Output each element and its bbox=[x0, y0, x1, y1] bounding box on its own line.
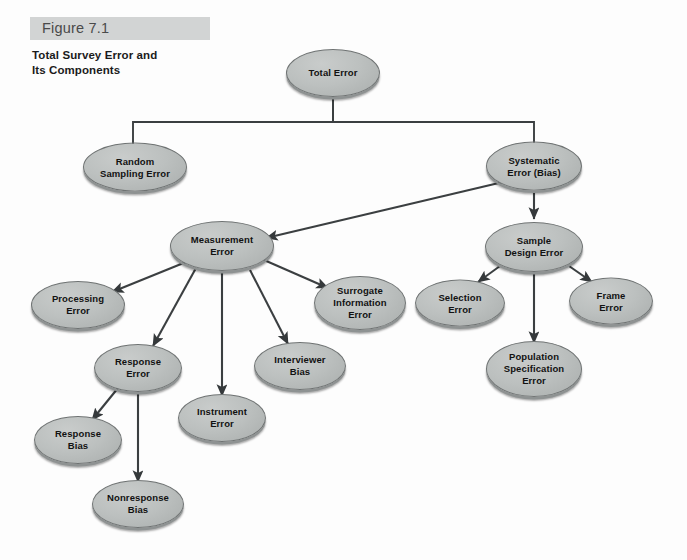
node-interviewer-bias[interactable]: InterviewerBias bbox=[254, 342, 346, 390]
node-total-error[interactable]: Total Error bbox=[286, 49, 380, 97]
node-label: SelectionError bbox=[433, 291, 486, 315]
edge-total-to-systematic bbox=[333, 99, 534, 144]
edge-response-to-responsebias bbox=[92, 388, 118, 420]
edge-measurement-to-surrogate bbox=[264, 260, 328, 288]
node-response-error[interactable]: ResponseError bbox=[94, 344, 182, 392]
edge-measurement-to-processing bbox=[112, 262, 186, 292]
edge-systematic-to-measurement bbox=[266, 182, 503, 238]
node-label: SurrogateInformationError bbox=[328, 285, 391, 321]
node-label: PopulationSpecificationError bbox=[499, 351, 569, 387]
node-label: MeasurementError bbox=[186, 234, 258, 258]
node-label: InterviewerBias bbox=[269, 354, 330, 378]
node-label: NonresponseBias bbox=[102, 492, 174, 516]
edge-total-to-random bbox=[133, 99, 333, 146]
node-instrument-error[interactable]: InstrumentError bbox=[178, 394, 266, 442]
node-label: SampleDesign Error bbox=[500, 235, 569, 259]
node-label: ProcessingError bbox=[47, 293, 109, 317]
node-label: ResponseBias bbox=[50, 428, 106, 452]
node-random-sampling-error[interactable]: RandomSampling Error bbox=[83, 143, 187, 192]
node-surrogate-information-error[interactable]: SurrogateInformationError bbox=[314, 276, 406, 330]
figure-canvas: Figure 7.1 Total Survey Error and Its Co… bbox=[0, 0, 687, 560]
node-label: SystematicError (Bias) bbox=[502, 154, 565, 178]
node-label: FrameError bbox=[591, 289, 630, 313]
edge-sample-to-selection bbox=[478, 266, 500, 282]
edge-measurement-to-response bbox=[153, 268, 196, 346]
node-systematic-error-bias[interactable]: SystematicError (Bias) bbox=[486, 142, 582, 191]
node-response-bias[interactable]: ResponseBias bbox=[34, 416, 122, 464]
node-nonresponse-bias[interactable]: NonresponseBias bbox=[92, 480, 184, 528]
node-measurement-error[interactable]: MeasurementError bbox=[170, 221, 274, 271]
edge-sample-to-frame bbox=[569, 266, 592, 282]
node-label: Total Error bbox=[304, 67, 363, 79]
node-processing-error[interactable]: ProcessingError bbox=[31, 281, 125, 329]
node-population-specification-error[interactable]: PopulationSpecificationError bbox=[486, 341, 582, 397]
edge-measurement-to-interviewer bbox=[250, 270, 288, 344]
node-label: InstrumentError bbox=[192, 406, 252, 430]
node-label: ResponseError bbox=[110, 356, 166, 380]
node-selection-error[interactable]: SelectionError bbox=[415, 280, 505, 327]
node-label: RandomSampling Error bbox=[95, 155, 175, 179]
node-frame-error[interactable]: FrameError bbox=[569, 278, 653, 325]
node-sample-design-error[interactable]: SampleDesign Error bbox=[485, 222, 583, 272]
